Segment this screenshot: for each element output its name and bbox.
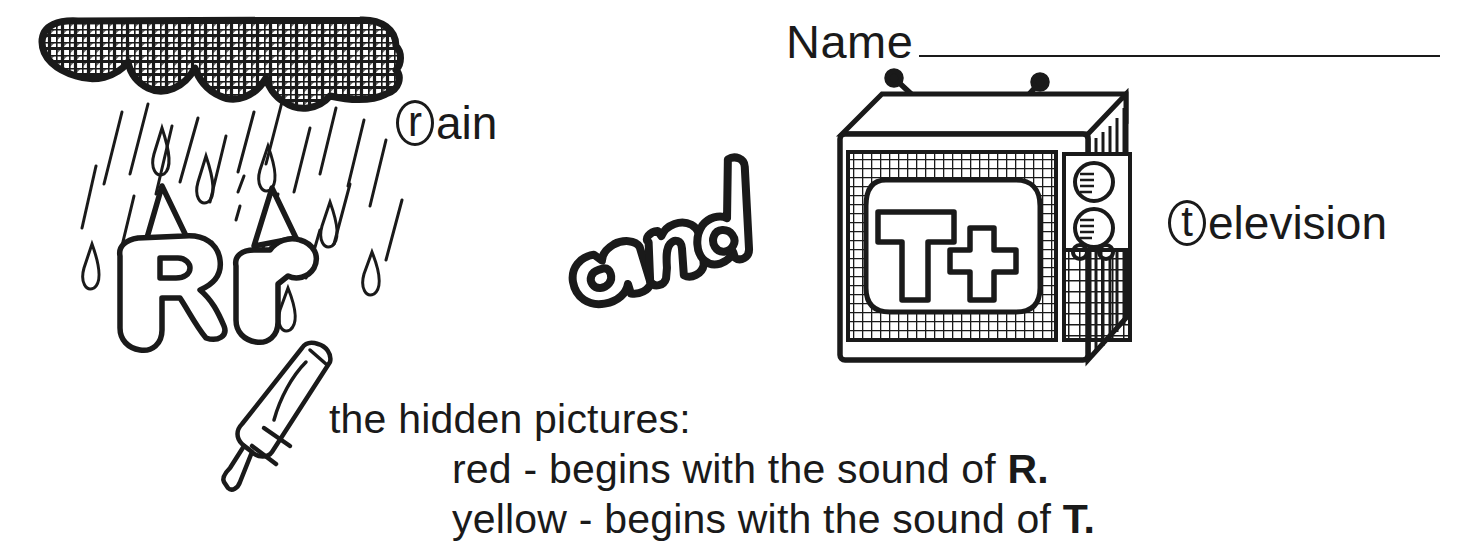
instruction-line-3-rest: - begins with the sound of bbox=[567, 496, 1063, 542]
label-television: t elevision bbox=[1168, 196, 1387, 250]
name-input-line[interactable] bbox=[919, 55, 1440, 57]
instruction-letter-R: R. bbox=[1007, 446, 1048, 492]
instruction-line-3: yellow - begins with the sound of T. bbox=[452, 496, 1095, 543]
label-rain: r ain bbox=[396, 96, 497, 150]
instruction-color-red: red bbox=[452, 446, 512, 492]
instruction-line-1: the hidden pictures: bbox=[329, 396, 691, 443]
instruction-color-yellow: yellow bbox=[452, 496, 567, 542]
instruction-line-2: red - begins with the sound of R. bbox=[452, 446, 1049, 493]
instruction-letter-T: T. bbox=[1063, 496, 1095, 542]
connector-word-and bbox=[539, 148, 784, 327]
circled-letter-r: r bbox=[396, 100, 434, 146]
worksheet-page: Name bbox=[0, 0, 1463, 558]
label-television-rest: elevision bbox=[1208, 196, 1387, 250]
television-illustration bbox=[826, 60, 1156, 380]
circled-letter-t: t bbox=[1168, 200, 1206, 246]
label-rain-rest: ain bbox=[436, 96, 497, 150]
instruction-line-2-rest: - begins with the sound of bbox=[512, 446, 1008, 492]
